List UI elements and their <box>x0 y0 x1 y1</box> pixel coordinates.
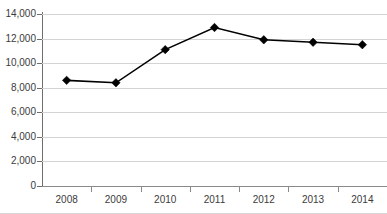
series-line <box>67 28 363 83</box>
series-layer <box>0 0 387 214</box>
line-chart: 02,0004,0006,0008,00010,00012,00014,000 … <box>0 0 387 214</box>
data-point-marker <box>358 41 366 49</box>
data-point-marker <box>260 36 268 44</box>
data-point-marker <box>309 38 317 46</box>
data-point-marker <box>210 23 218 31</box>
data-point-marker <box>62 76 70 84</box>
series-markers <box>62 23 366 87</box>
